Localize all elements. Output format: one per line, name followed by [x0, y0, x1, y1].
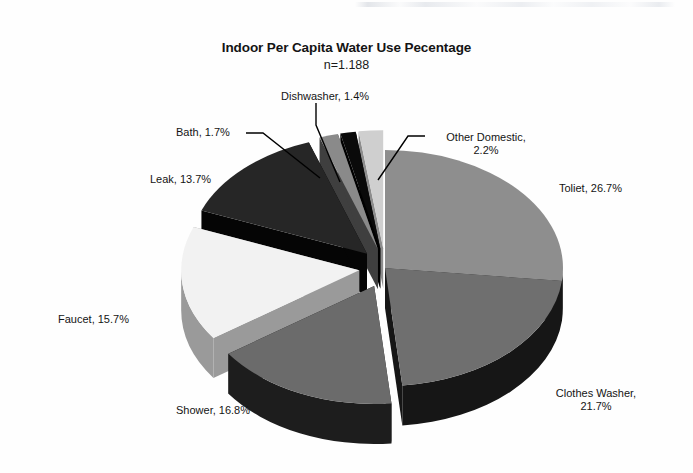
slice-label-dishwasher: Dishwasher, 1.4%	[281, 90, 369, 103]
slice-label-clothes-washer-line2: 21.7%	[580, 400, 611, 412]
slice-label-other-domestic-line1: Other Domestic,	[446, 131, 525, 143]
chart-page: Indoor Per Capita Water Use Pecentage n=…	[0, 0, 693, 473]
slice-label-other-domestic: Other Domestic, 2.2%	[430, 131, 542, 157]
slice-label-faucet: Faucet, 15.7%	[58, 313, 129, 326]
slice-label-bath: Bath, 1.7%	[176, 126, 230, 139]
slice-label-leak: Leak, 13.7%	[150, 173, 211, 186]
slice-label-clothes-washer-line1: Clothes Washer,	[556, 387, 636, 399]
slice-label-shower: Shower, 16.8%	[176, 404, 250, 417]
slice-label-toilet: Toliet, 26.7%	[559, 182, 622, 195]
slice-label-clothes-washer: Clothes Washer, 21.7%	[541, 387, 651, 413]
pie-slice-toliet[interactable]	[385, 150, 563, 281]
slice-label-other-domestic-line2: 2.2%	[473, 144, 498, 156]
